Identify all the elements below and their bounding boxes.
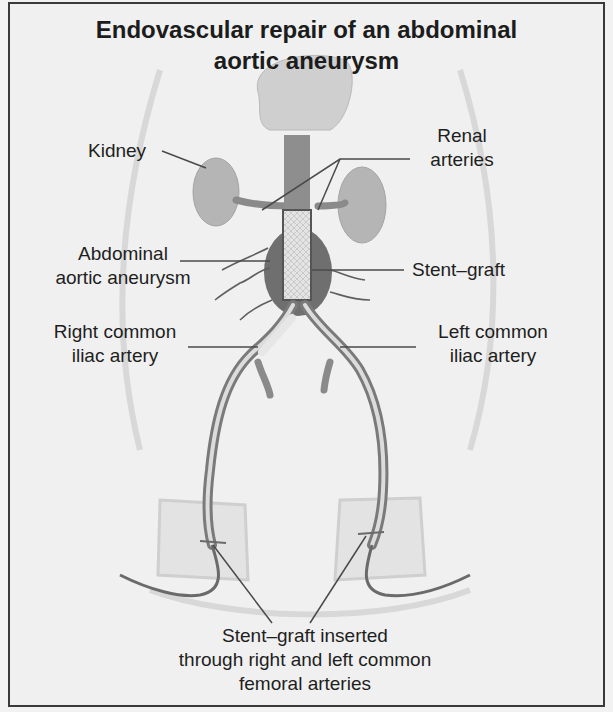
label-left-common-iliac: Left common iliac artery — [418, 320, 568, 368]
diagram-title: Endovascular repair of an abdominal aort… — [0, 14, 613, 76]
label-line: iliac artery — [40, 344, 190, 368]
label-line: aortic aneurysm — [38, 266, 208, 290]
label-line: Stent–graft inserted — [140, 624, 470, 648]
label-line: Abdominal — [38, 242, 208, 266]
label-line: Renal — [412, 124, 512, 148]
title-line-1: Endovascular repair of an abdominal — [0, 14, 613, 45]
label-renal-arteries: Renal arteries — [412, 124, 512, 172]
label-abdominal-aortic-aneurysm: Abdominal aortic aneurysm — [38, 242, 208, 290]
label-right-common-iliac: Right common iliac artery — [40, 320, 190, 368]
label-line: femoral arteries — [140, 672, 470, 696]
label-kidney: Kidney — [88, 139, 146, 163]
label-line: arteries — [412, 148, 512, 172]
aorta — [284, 135, 310, 210]
label-insertion-site: Stent–graft inserted through right and l… — [140, 624, 470, 696]
label-line: iliac artery — [418, 344, 568, 368]
stent-graft-icon — [283, 210, 311, 300]
label-line: Right common — [40, 320, 190, 344]
title-line-2: aortic aneurysm — [0, 45, 613, 76]
label-line: Left common — [418, 320, 568, 344]
kidney-left-icon — [193, 158, 239, 226]
label-line: through right and left common — [140, 648, 470, 672]
label-stent-graft: Stent–graft — [412, 258, 505, 282]
